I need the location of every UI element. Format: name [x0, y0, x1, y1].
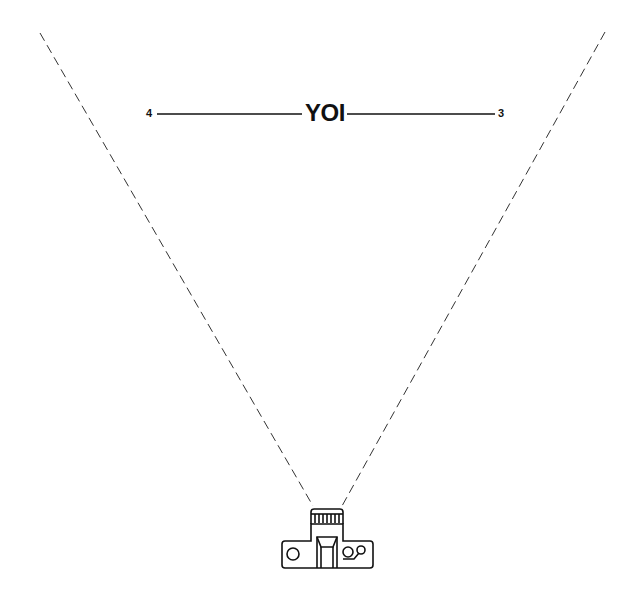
fov-left-dashed-line	[40, 33, 313, 506]
diagram-canvas: 4 YOI 3	[0, 0, 631, 592]
camera-top-view-icon	[282, 509, 373, 568]
diagram-svg	[0, 0, 631, 592]
left-marker-label: 4	[146, 107, 152, 119]
diagram-title: YOI	[305, 99, 345, 127]
right-marker-label: 3	[498, 107, 504, 119]
fov-right-dashed-line	[342, 32, 605, 506]
